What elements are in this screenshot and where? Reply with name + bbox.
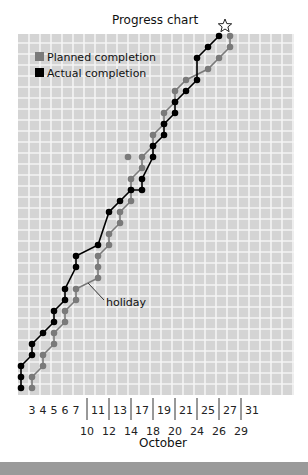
planned-completion-point [205,66,212,73]
planned-completion-point [139,154,146,161]
planned-completion-point [51,341,58,348]
planned-completion-point [183,77,190,84]
actual-completion-point [62,286,69,293]
actual-completion-point [161,121,168,128]
actual-completion-point [40,330,47,337]
actual-completion-point [194,55,201,62]
x-axis: 3456710111213141718192021242526272931 [29,398,260,438]
planned-completion-point [128,176,135,183]
planned-completion-point [172,88,179,95]
planned-completion-point [62,308,69,315]
actual-completion-point [62,297,69,304]
star-icon [218,19,231,32]
planned-completion-point [40,352,47,359]
legend-label-actual: Actual completion [47,67,146,80]
planned-completion-point [161,110,168,117]
chart-title: Progress chart [112,13,199,27]
x-tick-label-upper: 3 [29,404,36,417]
x-tick-label-lower: 10 [80,425,94,438]
actual-completion-point [183,88,190,95]
actual-completion-point [51,308,58,315]
progress-chart: Progress chart Planned completion Actual… [0,0,308,475]
actual-completion-point [128,187,135,194]
x-tick-label-lower: 29 [234,425,248,438]
actual-completion-point [106,209,113,216]
planned-completion-point [95,275,102,282]
x-tick-label-upper: 25 [201,404,215,417]
planned-completion-point [73,286,80,293]
x-tick-label-upper: 6 [62,404,69,417]
x-tick-label-lower: 14 [124,425,138,438]
actual-completion-point [18,385,25,392]
x-tick-label-upper: 7 [73,404,80,417]
star-marker [218,19,231,32]
x-tick-label-upper: 19 [157,404,171,417]
planned-completion-point [51,330,58,337]
bottom-bar [0,462,308,475]
actual-completion-point [161,132,168,139]
planned-completion-point [139,165,146,172]
planned-completion-point [117,220,124,227]
actual-completion-point [139,187,146,194]
x-tick-label-upper: 31 [245,404,259,417]
x-axis-title: October [139,436,187,450]
planned-completion-point [40,363,47,370]
legend-swatch-planned [35,52,44,61]
planned-completion-point [128,198,135,205]
actual-completion-point [117,198,124,205]
actual-completion-point [150,154,157,161]
actual-completion-point [29,341,36,348]
x-tick-label-lower: 12 [102,425,116,438]
stray-point [125,154,132,161]
chart-grid [18,34,294,395]
planned-completion-point [106,231,113,238]
actual-completion-point [29,352,36,359]
actual-completion-point [194,77,201,84]
actual-completion-point [139,176,146,183]
x-tick-label-upper: 4 [40,404,47,417]
x-tick-label-upper: 13 [113,404,127,417]
x-tick-label-upper: 11 [91,404,105,417]
actual-completion-point [150,143,157,150]
planned-completion-point [29,374,36,381]
planned-completion-point [95,264,102,271]
actual-completion-point [172,110,179,117]
actual-completion-point [51,319,58,326]
planned-completion-point [62,319,69,326]
legend-label-planned: Planned completion [47,51,156,64]
actual-completion-point [205,44,212,51]
x-tick-label-upper: 27 [223,404,237,417]
legend-swatch-actual [35,68,44,77]
actual-completion-point [73,253,80,260]
holiday-annotation: holiday [106,296,147,309]
planned-completion-point [106,242,113,249]
planned-completion-point [227,44,234,51]
actual-completion-point [18,374,25,381]
planned-completion-point [73,297,80,304]
x-tick-label-lower: 24 [190,425,204,438]
planned-completion-point [216,55,223,62]
planned-completion-point [95,253,102,260]
planned-completion-point [227,33,234,40]
grid-background [18,34,294,395]
planned-completion-point [150,132,157,139]
x-tick-label-upper: 17 [135,404,149,417]
actual-completion-point [18,363,25,370]
planned-completion-point [29,385,36,392]
x-tick-label-upper: 21 [179,404,193,417]
planned-completion-point [117,209,124,216]
x-tick-label-lower: 26 [212,425,226,438]
actual-completion-point [172,99,179,106]
actual-completion-point [216,33,223,40]
actual-completion-point [73,264,80,271]
x-tick-label-upper: 5 [51,404,58,417]
actual-completion-point [95,242,102,249]
